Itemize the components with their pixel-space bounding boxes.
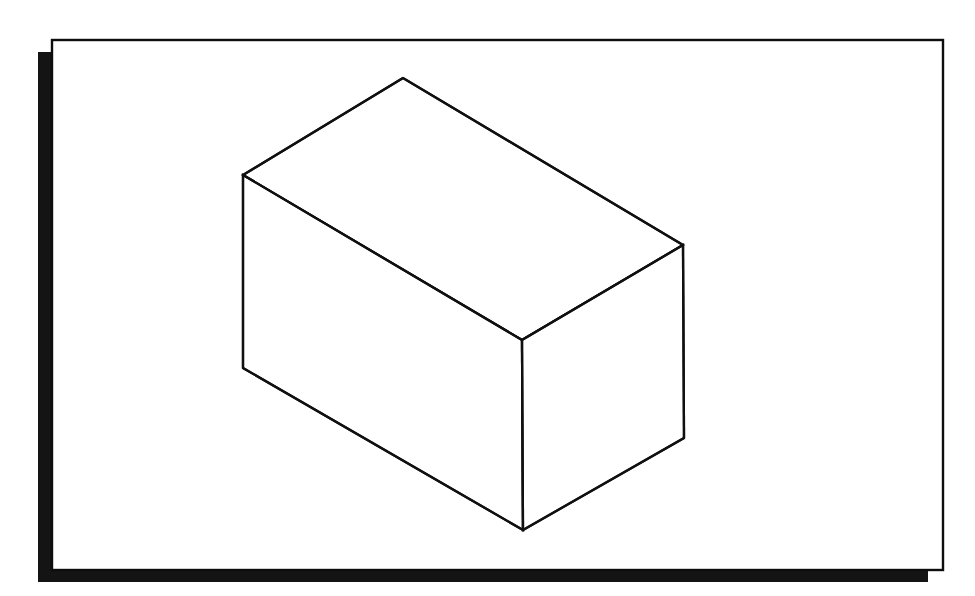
drawing-canvas — [0, 0, 975, 596]
edge-vertical-front — [522, 340, 523, 530]
figure-svg — [0, 0, 975, 596]
edge-vertical-right — [683, 245, 684, 438]
